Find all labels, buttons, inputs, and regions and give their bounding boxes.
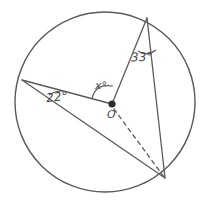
angle-label-x-degrees: x° xyxy=(95,79,107,92)
angle-label-33-degrees: 33° xyxy=(131,49,154,64)
angle-label-22-degrees: 22° xyxy=(45,89,68,105)
geometry-canvas xyxy=(0,0,214,205)
center-point-dot xyxy=(108,100,115,107)
segment-top-to-bottom-right xyxy=(147,18,165,178)
segment-center-to-bottom-right-dashed xyxy=(114,109,164,177)
geometry-figure: 33° 22° x° O xyxy=(0,0,214,205)
center-point-label: O xyxy=(107,108,116,121)
